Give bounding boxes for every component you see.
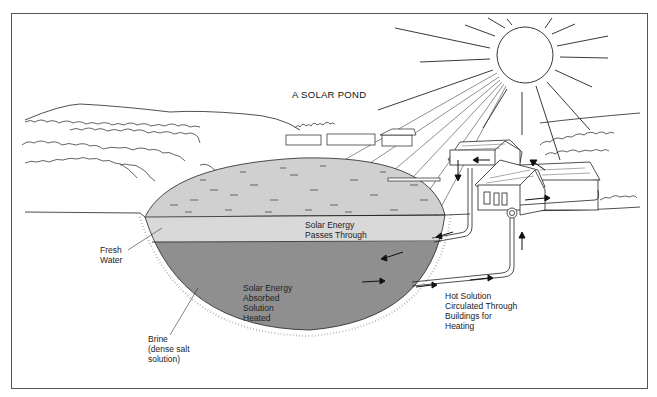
diagram-title: A SOLAR POND <box>292 90 366 100</box>
label-fresh-water: Fresh Water <box>100 245 122 265</box>
label-solar-absorbed: Solar Energy Absorbed Solution Heated <box>243 283 292 323</box>
label-solar-passes: Solar Energy Passes Through <box>305 220 367 240</box>
sun-icon <box>378 18 608 160</box>
label-hot-solution: Hot Solution Circulated Through Building… <box>445 291 517 331</box>
label-brine: Brine (dense salt solution) <box>148 334 190 364</box>
pond <box>140 158 451 342</box>
solar-pond-illustration <box>0 0 657 397</box>
hills <box>25 104 640 130</box>
house-main <box>475 160 600 218</box>
house-small <box>448 140 522 165</box>
